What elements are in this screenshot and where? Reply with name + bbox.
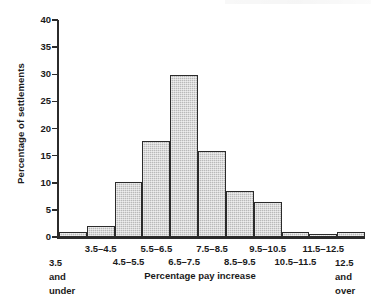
x-axis-line [57,237,365,239]
histogram-bar [170,75,198,237]
y-axis-tick [52,74,58,76]
y-axis-tick-label: 20 [29,124,51,133]
x-axis-label: Percentage pay increase [100,270,300,281]
x-axis-tick-label: 11.5–12.5 [283,243,363,254]
y-axis-tick [52,46,58,48]
x-axis-end-label-line: and [335,270,355,284]
x-axis-end-label-line: 3.5 [49,256,75,270]
histogram-bar [226,191,254,237]
y-axis-tick-label: 15 [29,151,51,160]
y-axis-tick [52,155,58,157]
histogram-bar [309,234,337,237]
plot-area: 0510152025303540 [57,20,365,239]
histogram-bar [282,232,310,237]
y-axis-tick-label: 0 [29,232,51,241]
histogram-bar [198,151,226,237]
y-axis-tick [52,182,58,184]
y-axis-tick-label: 35 [29,42,51,51]
histogram-bar [254,202,282,237]
y-axis-tick-label: 30 [29,69,51,78]
x-axis-end-label: 12.5andover [335,256,355,295]
histogram-figure: Percentage of settlements 05101520253035… [0,0,371,295]
histogram-bar [87,226,115,237]
x-axis-end-label-line: over [335,284,355,295]
x-axis-end-label-line: and [49,270,75,284]
y-axis-tick [52,236,58,238]
y-axis-tick [52,19,58,21]
scan-artifact [225,0,371,4]
y-axis-tick-label: 40 [29,15,51,24]
y-axis-tick-label: 25 [29,96,51,105]
y-axis-tick-labels: 0510152025303540 [27,20,51,239]
x-axis-end-label-line: under [49,284,75,295]
x-axis-end-label-line: 12.5 [335,256,355,270]
histogram-bar [115,182,143,237]
x-axis-tick-label: 10.5–11.5 [255,256,335,267]
y-axis-tick-label: 5 [29,205,51,214]
histogram-bar [337,232,365,237]
histogram-bar [59,232,87,237]
y-axis-tick [52,101,58,103]
bar-series [59,20,365,237]
x-axis-end-label: 3.5andunder [49,256,75,295]
y-axis-tick-label: 10 [29,178,51,187]
y-axis-tick [52,128,58,130]
histogram-bar [142,141,170,237]
y-axis-tick [52,209,58,211]
y-axis-label: Percentage of settlements [15,49,26,199]
